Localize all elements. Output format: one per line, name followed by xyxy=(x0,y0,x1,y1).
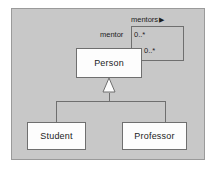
class-name-professor: Professor xyxy=(134,132,174,141)
association-name-mentors: mentors▶ xyxy=(131,16,164,24)
association-multiplicity-target: 0..* xyxy=(144,47,155,55)
class-name-student: Student xyxy=(40,132,72,141)
association-name-mentors-text: mentors xyxy=(131,15,158,24)
class-name-person: Person xyxy=(94,59,124,68)
navigation-arrow-icon: ▶ xyxy=(159,16,164,23)
uml-class-diagram: Person Student Professor mentors▶ mentor… xyxy=(0,0,218,172)
class-box-person[interactable]: Person xyxy=(76,48,142,78)
class-box-student[interactable]: Student xyxy=(27,122,86,150)
association-multiplicity-source: 0..* xyxy=(134,31,145,39)
class-box-professor[interactable]: Professor xyxy=(122,122,187,150)
association-role-mentor: mentor xyxy=(100,31,123,39)
